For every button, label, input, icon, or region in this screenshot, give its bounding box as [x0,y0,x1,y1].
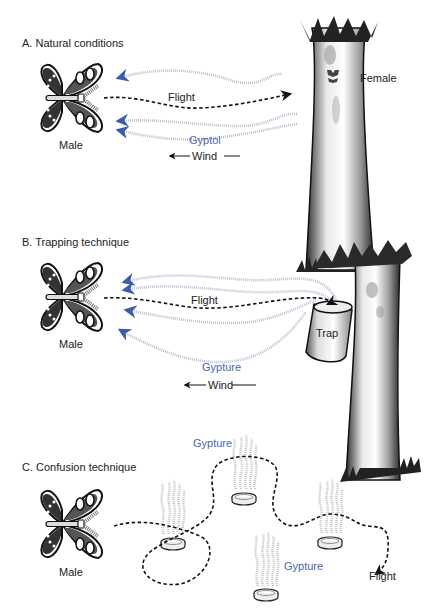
tree-icon [296,16,378,272]
moth-icon [41,64,102,132]
panel-a-pheromone-label: Gyptol [189,135,221,146]
panel-a-flight-label: Flight [168,92,195,103]
panel-c-flight-label: Flight [369,571,396,582]
panel-c-title: C. Confusion technique [22,462,136,473]
pheromone-dish-icon [254,532,278,601]
panel-b-title: B. Trapping technique [22,237,129,248]
panel-a-male-label: Male [59,140,83,151]
panel-c [41,435,388,601]
pheromone-dish-icon [161,480,185,550]
panel-a-female-label: Female [360,73,397,84]
diagram-canvas [0,0,441,610]
panel-a-wind-label: Wind [192,151,217,162]
panel-b-pheromone-label: Gypture [202,362,241,373]
panel-b-flight-label: Flight [191,295,218,306]
panel-a-title: A. Natural conditions [22,38,124,49]
panel-c-pheromone-label-2: Gypture [284,561,323,572]
panel-b-trap-label: Trap [316,328,338,339]
panel-b-wind-label: Wind [208,380,233,391]
panel-c-pheromone-label-1: Gypture [193,438,232,449]
moth-icon [41,263,102,331]
pheromone-dish-icon [232,435,256,505]
panel-c-male-label: Male [59,567,83,578]
panel-b-male-label: Male [59,339,83,350]
moth-icon [41,490,102,558]
